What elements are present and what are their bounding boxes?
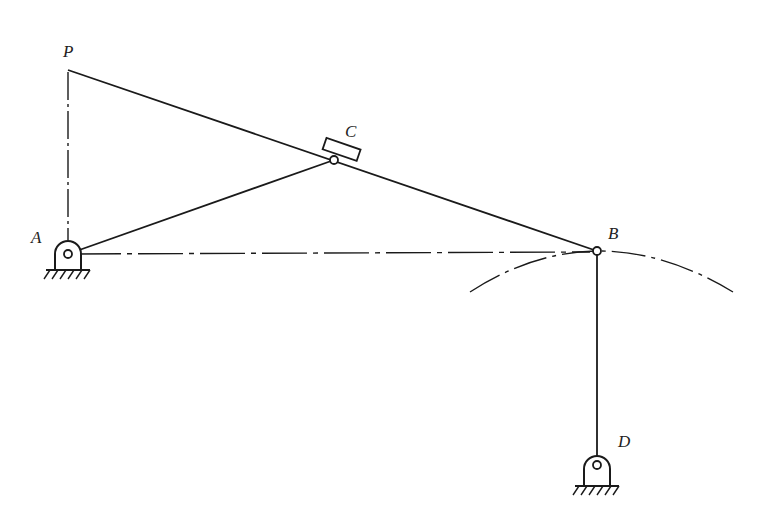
label-a: A (31, 228, 41, 248)
ground-support-a (44, 241, 90, 279)
label-p: P (63, 42, 73, 62)
ground-support-d (573, 456, 619, 495)
label-d: D (618, 432, 630, 452)
crank-ac (68, 160, 334, 254)
joint-c (330, 156, 338, 164)
mechanism-diagram (0, 0, 761, 520)
arc-path-b (470, 251, 733, 292)
joint-b (593, 247, 601, 255)
construction-line-ab (76, 252, 590, 254)
joint-d (593, 461, 601, 469)
joint-a (64, 250, 72, 258)
label-c: C (345, 122, 356, 142)
label-b: B (608, 224, 618, 244)
